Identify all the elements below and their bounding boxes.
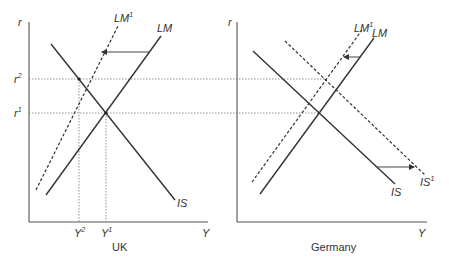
germany-y-axis-label: Y xyxy=(418,227,426,239)
germany-r-axis-label: r xyxy=(228,16,233,28)
uk-lm-label: LM xyxy=(157,22,173,34)
uk-is-label: IS xyxy=(177,197,188,209)
germany-is1-label: IS1 xyxy=(420,175,434,188)
germany-lm-curve xyxy=(260,38,374,194)
uk-y1-label: Y1 xyxy=(101,226,112,239)
germany-lm1-curve xyxy=(252,30,362,182)
uk-equilibrium-1 xyxy=(104,111,107,114)
germany-panel-title: Germany xyxy=(311,241,357,253)
uk-equilibrium-2 xyxy=(77,77,80,80)
germany-lm1-label: LM1 xyxy=(354,21,373,34)
islm-diagram: r r2 r1 Y2 Y1 Y LM1 LM IS UK r Y LM1 LM … xyxy=(0,0,449,267)
germany-lm-label: LM xyxy=(372,27,388,39)
uk-r1-label: r1 xyxy=(14,106,22,119)
germany-is1-curve xyxy=(285,41,426,176)
germany-is-curve xyxy=(253,51,395,184)
uk-panel: r r2 r1 Y2 Y1 Y LM1 LM IS UK xyxy=(14,11,327,253)
uk-r2-label: r2 xyxy=(14,72,22,85)
uk-lm1-label: LM1 xyxy=(114,11,133,24)
uk-r-axis-label: r xyxy=(18,16,23,28)
uk-panel-title: UK xyxy=(112,241,128,253)
uk-y-axis-label: Y xyxy=(202,227,210,239)
germany-panel: r Y LM1 LM IS IS1 Germany xyxy=(228,16,434,253)
uk-y2-label: Y2 xyxy=(74,226,85,239)
germany-is-label: IS xyxy=(391,186,402,198)
